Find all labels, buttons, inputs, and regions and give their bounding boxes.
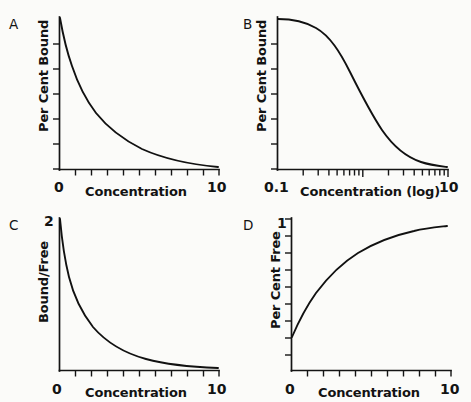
panel-b-x-ticks-log — [303, 170, 448, 178]
panel-d: D — [236, 201, 471, 402]
panel-c: C Bound/Free Concentration 0 10 2 — [0, 201, 235, 402]
panel-d-y-ticks — [285, 219, 292, 355]
panel-c-letter: C — [9, 217, 19, 233]
panel-d-x-ticks — [308, 371, 452, 377]
panel-a: A — [0, 0, 235, 201]
panel-c-x-ticks — [76, 371, 220, 377]
panel-b-x-tick-max: 10 — [439, 179, 459, 195]
page-bleed-through-artifact — [250, 389, 465, 400]
binding-curves-figure: A — [0, 0, 471, 402]
panel-b-letter: B — [243, 16, 253, 32]
panel-c-x-tick-max: 10 — [207, 381, 227, 397]
panel-b-y-axis-label: Per Cent Bound — [254, 20, 269, 132]
panel-a-y-axis-label: Per Cent Bound — [36, 20, 51, 132]
panel-a-x-tick-max: 10 — [207, 179, 227, 195]
panel-a-x-tick-min: 0 — [54, 179, 64, 195]
panel-b-x-tick-min: 0.1 — [264, 179, 289, 195]
panel-a-y-ticks — [53, 44, 60, 169]
panel-d-y-axis-label: Per Cent Free — [268, 231, 283, 329]
panel-d-curve — [292, 226, 447, 337]
panel-a-letter: A — [9, 16, 19, 32]
panel-d-y-tick-max: 1 — [277, 215, 287, 231]
panel-c-x-axis-label: Concentration — [85, 385, 187, 400]
panel-b: B — [236, 0, 471, 201]
panel-b-curve — [278, 19, 447, 167]
panel-c-x-tick-min: 0 — [52, 381, 62, 397]
panel-a-x-ticks — [76, 170, 220, 176]
panel-a-curve — [60, 18, 218, 167]
panel-b-y-ticks — [271, 44, 278, 169]
panel-c-curve — [60, 219, 218, 368]
panel-b-x-axis-label: Concentration (log) — [300, 184, 440, 199]
panel-c-y-axis-label: Bound/Free — [36, 241, 51, 323]
panel-a-x-axis-label: Concentration — [85, 184, 187, 199]
panel-c-y-tick-max: 2 — [44, 213, 54, 229]
panel-d-letter: D — [243, 217, 254, 233]
